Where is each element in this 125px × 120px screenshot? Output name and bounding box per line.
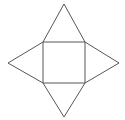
left-triangle [8, 42, 43, 83]
figure-canvas [0, 0, 125, 120]
central-square [43, 42, 85, 83]
top-triangle [43, 4, 85, 42]
square-pyramid-net-drawing [0, 0, 125, 120]
right-triangle [85, 42, 119, 83]
bottom-triangle [43, 83, 85, 117]
